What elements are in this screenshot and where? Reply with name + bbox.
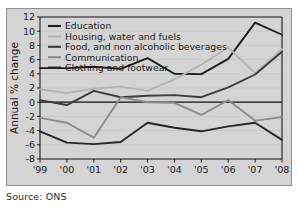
y-tick-label: -8: [26, 153, 35, 164]
y-tick-label: 8: [29, 40, 35, 51]
chart-panel: 121086420-2-4-6-8 '99'00'01'02'03'04'05'…: [6, 8, 292, 186]
y-tick-label: 2: [29, 82, 35, 93]
figure-container: 121086420-2-4-6-8 '99'00'01'02'03'04'05'…: [0, 0, 298, 213]
x-tick-label: '00: [60, 164, 75, 175]
series-line: [40, 97, 282, 137]
x-tick-label: '05: [194, 164, 209, 175]
y-axis-group: 121086420-2-4-6-8: [23, 11, 40, 164]
y-axis-title: Annual % change: [8, 42, 20, 134]
x-tick-label: '99: [33, 164, 48, 175]
y-tick-label: 4: [29, 68, 35, 79]
line-chart: 121086420-2-4-6-8 '99'00'01'02'03'04'05'…: [7, 9, 293, 187]
y-axis-title-label: Annual % change: [8, 42, 20, 134]
y-tick-label: -2: [26, 111, 35, 122]
legend-label: Communication: [65, 52, 138, 63]
legend-label: Education: [65, 20, 111, 31]
source-note: Source: ONS: [6, 191, 67, 202]
x-tick-label: '01: [86, 164, 101, 175]
y-tick-label: 6: [29, 54, 35, 65]
y-tick-label: -6: [26, 139, 35, 150]
y-tick-label: 10: [23, 26, 35, 37]
x-tick-label: '07: [248, 164, 263, 175]
y-tick-label: 12: [23, 11, 35, 22]
x-tick-label: '04: [167, 164, 182, 175]
x-tick-label: '03: [140, 164, 155, 175]
x-tick-label: '08: [275, 164, 290, 175]
legend-label: Clothing and footwear: [65, 62, 168, 73]
y-tick-label: -4: [26, 125, 35, 136]
legend-label: Food, and non alcoholic beverages: [65, 41, 227, 52]
x-tick-label: '06: [221, 164, 236, 175]
series-line: [40, 123, 282, 144]
y-tick-label: 0: [29, 97, 35, 108]
legend-label: Housing, water and fuels: [65, 31, 181, 42]
x-tick-label: '02: [113, 164, 128, 175]
